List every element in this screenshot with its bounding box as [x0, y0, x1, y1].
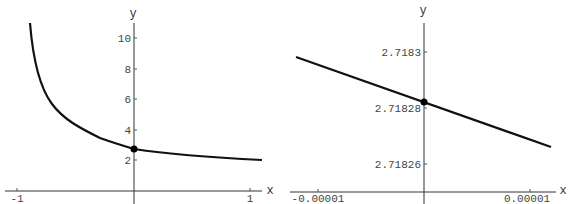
right-y-tick-label: 2.71828 — [375, 103, 421, 115]
right-y-tick-label: 2.71826 — [375, 159, 421, 171]
right-x-tick-label: -0.00001 — [292, 193, 345, 204]
figure: -1 1 x 2 4 6 8 10 y -0.00001 0.00001 x 2… — [0, 0, 569, 204]
left-x-tick-label: -1 — [10, 193, 24, 204]
left-y-tick-label: 2 — [124, 155, 131, 167]
right-highlight-point — [421, 99, 428, 106]
left-curve — [30, 23, 262, 160]
right-y-axis-label: y — [419, 4, 426, 18]
left-plot: -1 1 x 2 4 6 8 10 y — [5, 7, 274, 204]
left-y-tick-label: 6 — [124, 94, 131, 106]
left-x-tick-label: 1 — [247, 193, 254, 204]
right-plot: -0.00001 0.00001 x 2.71826 2.71828 2.718… — [290, 4, 567, 204]
right-x-tick-label: 0.00001 — [504, 193, 551, 204]
left-y-axis-label: y — [129, 7, 136, 21]
right-x-axis-label: x — [559, 184, 566, 198]
left-y-tick-label: 4 — [124, 125, 131, 137]
left-x-axis-label: x — [266, 184, 273, 198]
left-highlight-point — [131, 146, 138, 153]
right-y-tick-label: 2.7183 — [381, 47, 421, 59]
left-y-tick-label: 10 — [118, 33, 131, 45]
left-y-tick-label: 8 — [124, 64, 131, 76]
